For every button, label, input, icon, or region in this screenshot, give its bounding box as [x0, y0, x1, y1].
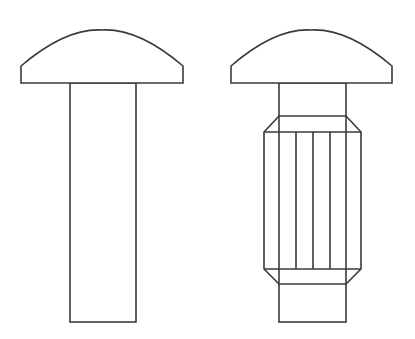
- rivet-head: [21, 30, 183, 83]
- plain-rivet: [21, 30, 183, 322]
- rivet-diagram: [0, 0, 415, 339]
- rivet-shaft: [70, 83, 136, 322]
- knurl-ridges: [264, 116, 361, 284]
- knurled-rivet: [231, 30, 392, 322]
- rivet-head: [231, 30, 392, 83]
